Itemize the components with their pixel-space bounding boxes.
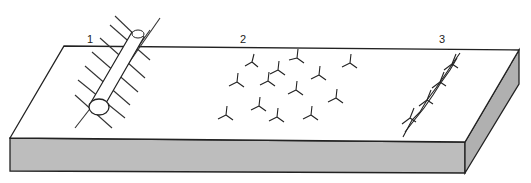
label-2: 2 [240, 33, 246, 45]
label-1: 1 [87, 33, 93, 45]
label-3: 3 [439, 33, 445, 45]
obstacle-diagram: 1 2 3 [0, 0, 531, 183]
slab-top-face [10, 46, 519, 142]
slab-front-face [10, 138, 465, 173]
slab-drawing [0, 0, 531, 183]
